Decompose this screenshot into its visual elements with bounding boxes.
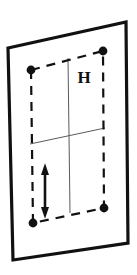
corner-bottom-right	[100, 204, 109, 213]
label-group: H	[77, 68, 90, 87]
figure-background	[0, 0, 137, 275]
height-label: H	[77, 68, 90, 87]
corner-bottom-left	[29, 219, 38, 228]
figure-container: H	[0, 0, 137, 275]
diagram-canvas: H	[0, 0, 137, 275]
corner-top-right	[99, 47, 108, 56]
corner-top-left	[27, 66, 36, 75]
